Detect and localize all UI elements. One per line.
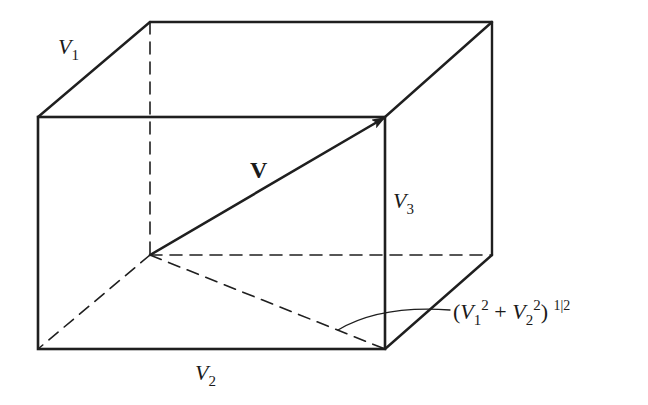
pointer-arc — [338, 309, 450, 330]
label-v3: V3 — [393, 190, 414, 217]
hidden-depth-edge — [38, 255, 150, 349]
box-drawing — [0, 0, 648, 405]
vector-v-arrow — [150, 118, 384, 255]
label-magnitude: (V12 + V22) 1|2 — [453, 298, 570, 328]
front-face — [38, 117, 385, 349]
diagram-canvas: V1 V V3 V2 (V12 + V22) 1|2 — [0, 0, 648, 405]
edge-v1 — [38, 22, 150, 117]
edge-top-right — [385, 22, 492, 117]
label-vector-v: V — [250, 158, 267, 182]
label-v1: V1 — [58, 36, 79, 63]
diagonal-v1-v2 — [150, 255, 385, 349]
label-v2: V2 — [195, 362, 216, 389]
